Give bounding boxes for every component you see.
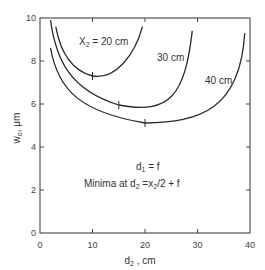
x-axis-title: d2 , cm: [124, 255, 155, 267]
x-tick-label-30: 30: [192, 240, 202, 250]
y-tick-label-10: 10: [26, 13, 36, 23]
y-tick-label-4: 4: [31, 142, 36, 152]
annotation-d1-equals-f: d1 = f: [136, 161, 160, 173]
x-ticks-top: [93, 18, 198, 22]
x-tick-label-40: 40: [245, 240, 255, 250]
y-tick-label-6: 6: [31, 99, 36, 109]
series-label-30cm: 30 cm: [157, 52, 184, 63]
y-tick-label-2: 2: [31, 185, 36, 195]
y-tick-label-0: 0: [31, 228, 36, 238]
annotation-minima: Minima at d2 =x2/2 + f: [84, 178, 180, 190]
series-label-20cm: X2 = 20 cm: [79, 36, 128, 48]
curve-x2-20cm: [56, 27, 143, 77]
x-tick-label-0: 0: [37, 240, 42, 250]
series-label-40cm: 40 cm: [205, 75, 232, 86]
chart: 0 2 4 6 8 10 0 10 20 30 40 d2 , cm wo, μ…: [0, 0, 265, 270]
x-tick-label-10: 10: [87, 240, 97, 250]
y-tick-label-8: 8: [31, 56, 36, 66]
x-tick-label-20: 20: [140, 240, 150, 250]
y-ticks-left: [40, 61, 44, 190]
x-ticks-bottom: [93, 229, 198, 233]
y-axis-title: wo, μm: [11, 113, 23, 145]
y-ticks-right: [246, 61, 250, 190]
